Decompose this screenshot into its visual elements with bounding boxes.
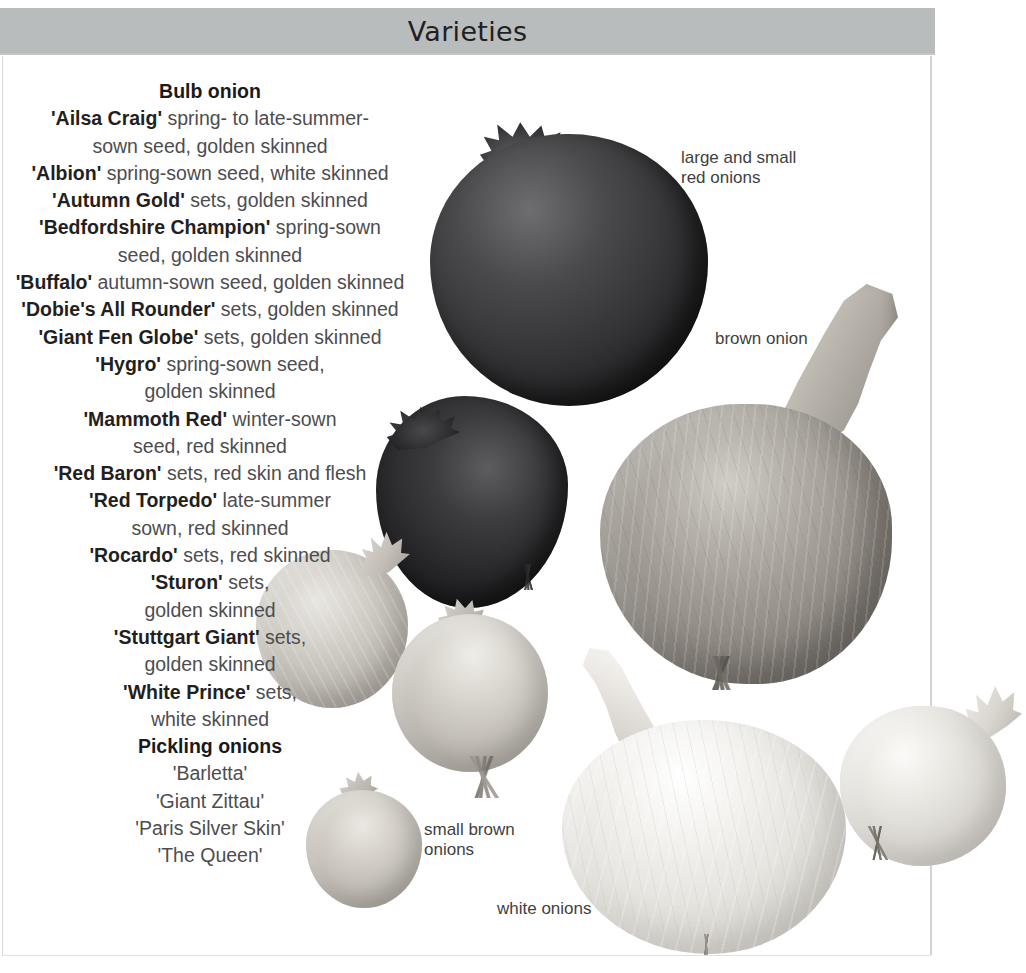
variety-name: 'Red Baron' [54, 462, 162, 484]
onion-bulb [392, 614, 548, 772]
variety-name: 'Dobie's All Rounder' [21, 298, 215, 320]
variety-description: sets, golden skinned [185, 189, 368, 211]
variety-entry: 'Giant Zittau' [14, 788, 406, 815]
variety-description: spring-sown seed, white skinned [101, 162, 388, 184]
variety-description: sets, golden skinned [198, 326, 381, 348]
variety-entry: 'Autumn Gold' sets, golden skinned [14, 187, 406, 214]
variety-description: sets, red skin and flesh [162, 462, 367, 484]
variety-entry: 'Mammoth Red' winter-sown [14, 406, 406, 433]
onion-roots [428, 756, 540, 798]
variety-description-continued: seed, golden skinned [14, 242, 406, 269]
page-title: Varieties [0, 8, 935, 55]
onion-skin-ridges [600, 404, 892, 684]
variety-entry: 'Stuttgart Giant' sets, [14, 624, 406, 651]
variety-entry: 'White Prince' sets, [14, 679, 406, 706]
variety-entry: 'Paris Silver Skin' [14, 815, 406, 842]
variety-entry: 'Sturon' sets, [14, 569, 406, 596]
variety-description: sets, [223, 571, 270, 593]
photo-large-white-onion [556, 646, 846, 954]
variety-name: 'Buffalo' [16, 271, 92, 293]
variety-name: 'Ailsa Craig' [51, 107, 162, 129]
variety-description-continued: golden skinned [14, 378, 406, 405]
variety-entry: 'Hygro' spring-sown seed, [14, 351, 406, 378]
variety-entry: 'Barletta' [14, 760, 406, 787]
variety-description: spring-sown [270, 216, 381, 238]
variety-name: 'Sturon' [151, 571, 223, 593]
bottom-rule [2, 955, 931, 956]
variety-entry: 'Bedfordshire Champion' spring-sown [14, 214, 406, 241]
varieties-section-heading: Bulb onion [14, 78, 406, 105]
variety-description-continued: seed, red skinned [14, 433, 406, 460]
variety-name: 'Autumn Gold' [52, 189, 185, 211]
caption-brown-onion: brown onion [715, 329, 808, 349]
variety-description-continued: white skinned [14, 706, 406, 733]
variety-description: late-summer [217, 489, 331, 511]
variety-description-continued: golden skinned [14, 651, 406, 678]
variety-description: sets, red skinned [178, 544, 331, 566]
variety-entry: 'Red Baron' sets, red skin and flesh [14, 460, 406, 487]
variety-name: 'Stuttgart Giant' [114, 626, 260, 648]
variety-description: autumn-sown seed, golden skinned [92, 271, 404, 293]
onion-roots [684, 934, 730, 955]
onion-skin-ridges [562, 720, 846, 954]
variety-description-continued: golden skinned [14, 597, 406, 624]
variety-description: sets, [260, 626, 307, 648]
variety-name: 'Mammoth Red' [83, 408, 227, 430]
variety-description: sets, golden skinned [215, 298, 398, 320]
variety-entry: 'Red Torpedo' late-summer [14, 487, 406, 514]
onion-roots [842, 826, 914, 860]
variety-entry: 'Albion' spring-sown seed, white skinned [14, 160, 406, 187]
caption-red-onions: large and small red onions [681, 148, 796, 188]
variety-entry: 'Buffalo' autumn-sown seed, golden skinn… [14, 269, 406, 296]
variety-description: spring-sown seed, [161, 353, 325, 375]
variety-name: 'Red Torpedo' [89, 489, 217, 511]
caption-small-brown-onions: small brown onions [424, 820, 515, 860]
variety-name: 'Giant Fen Globe' [38, 326, 198, 348]
variety-description-continued: sown, red skinned [14, 515, 406, 542]
onion-roots [494, 564, 564, 590]
variety-entry: 'The Queen' [14, 842, 406, 869]
variety-description: sets, [250, 681, 297, 703]
variety-description: winter-sown [227, 408, 336, 430]
variety-description: spring- to late-summer- [162, 107, 369, 129]
caption-white-onions: white onions [497, 899, 592, 919]
variety-description-continued: sown seed, golden skinned [14, 133, 406, 160]
photo-right-white-onion [840, 674, 1026, 872]
variety-entry: 'Ailsa Craig' spring- to late-summer- [14, 105, 406, 132]
variety-entry: 'Giant Fen Globe' sets, golden skinned [14, 324, 406, 351]
varieties-list: Bulb onion'Ailsa Craig' spring- to late-… [14, 78, 406, 870]
variety-name: 'Albion' [31, 162, 101, 184]
variety-entry: 'Dobie's All Rounder' sets, golden skinn… [14, 296, 406, 323]
variety-name: 'Bedfordshire Champion' [39, 216, 270, 238]
variety-entry: 'Rocardo' sets, red skinned [14, 542, 406, 569]
variety-name: 'Hygro' [95, 353, 161, 375]
variety-name: 'Rocardo' [89, 544, 177, 566]
variety-name: 'White Prince' [123, 681, 250, 703]
varieties-section-heading: Pickling onions [14, 733, 406, 760]
